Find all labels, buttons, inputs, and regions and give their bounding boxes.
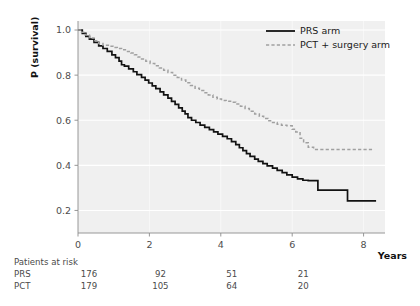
risk-value-prs-t2: 92 [155,269,166,279]
y-tick-label-0.4: 0.4 [56,160,71,171]
survival-chart-figure: 1.00.80.60.40.2 02468 P (survival) Years… [0,0,420,306]
x-tick-label-2: 2 [146,239,152,250]
x-tick-labels: 02468 [75,239,367,250]
risk-row-label-prs: PRS [14,269,31,279]
risk-value-prs-t6: 21 [298,269,309,279]
legend-label-pct-surgery-arm: PCT + surgery arm [300,39,390,50]
risk-value-pct-t6: 20 [298,281,309,291]
chart-svg: 1.00.80.60.40.2 02468 P (survival) Years… [0,0,420,306]
x-tick-label-4: 4 [218,239,224,250]
y-tick-label-0.8: 0.8 [56,70,71,81]
y-tick-labels: 1.00.80.60.40.2 [56,24,71,215]
x-tick-label-6: 6 [289,239,295,250]
y-axis-title: P (survival) [29,17,40,78]
legend-label-prs-arm: PRS arm [300,25,340,36]
y-tick-label-1.0: 1.0 [56,24,71,35]
x-tick-label-0: 0 [75,239,81,250]
y-tick-label-0.6: 0.6 [56,115,71,126]
risk-table-title: Patients at risk [14,257,78,267]
y-tick-label-0.2: 0.2 [56,205,71,216]
patients-at-risk-table: PRS176925121PCT1791056420 [14,269,309,291]
risk-value-prs-t4: 51 [226,269,237,279]
x-tick-label-8: 8 [361,239,367,250]
x-axis-title: Years [377,250,408,261]
risk-value-pct-t2: 105 [152,281,168,291]
risk-row-label-pct: PCT [14,281,31,291]
risk-value-prs-t0: 176 [81,269,97,279]
risk-value-pct-t4: 64 [226,281,237,291]
plot-panel-background [78,21,385,233]
risk-value-pct-t0: 179 [81,281,97,291]
